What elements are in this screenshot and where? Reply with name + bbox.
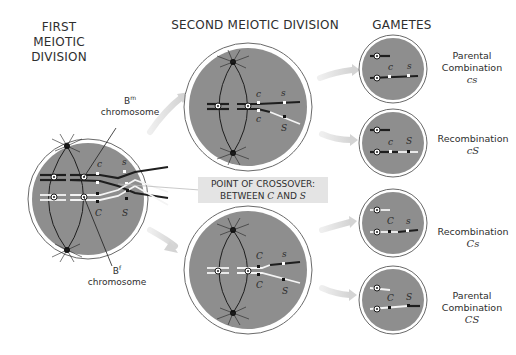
crossover-gene2: S <box>300 191 306 201</box>
gamete-type2: Combination <box>432 302 512 314</box>
svg-text:C: C <box>256 251 263 261</box>
label-word: chromosome <box>88 277 146 287</box>
svg-text:C: C <box>387 216 394 226</box>
gamete-genotype: cs <box>432 74 512 86</box>
svg-text:S: S <box>406 292 412 302</box>
svg-text:s: s <box>406 216 411 226</box>
svg-text:c: c <box>256 114 261 124</box>
gamete-type: Parental <box>432 290 512 302</box>
bm-chromosome-label: Bm chromosome <box>100 92 160 118</box>
second-division-lower-cell: C s C S <box>184 206 312 334</box>
gamete-label-cS: Recombination cS <box>430 133 516 157</box>
arrow-icon <box>320 70 352 78</box>
svg-text:c: c <box>388 62 393 72</box>
gamete-type: Recombination <box>430 226 516 238</box>
gamete-label-cs: Parental Combination cs <box>432 50 512 86</box>
crossover-prefix: BETWEEN <box>220 191 267 201</box>
svg-text:s: s <box>407 61 412 71</box>
gamete-genotype: CS <box>432 314 512 326</box>
gamete-type: Parental <box>432 50 512 62</box>
gamete-genotype: cS <box>430 145 516 157</box>
svg-text:S: S <box>122 208 128 218</box>
arrow-icon <box>322 288 350 295</box>
gamete-cell-CS: C S <box>359 266 427 334</box>
bf-chromosome-label: Bf chromosome <box>82 262 152 288</box>
label-word: chromosome <box>101 107 159 117</box>
label-sup: m <box>130 94 136 101</box>
svg-text:C: C <box>387 293 394 303</box>
svg-text:c: c <box>97 159 102 169</box>
gamete-label-CS: Parental Combination CS <box>432 290 512 326</box>
crossover-line2: BETWEEN C AND S <box>198 190 328 202</box>
gamete-label-Cs: Recombination Cs <box>430 226 516 250</box>
svg-text:s: s <box>282 249 287 259</box>
svg-text:s: s <box>281 88 286 98</box>
svg-text:C: C <box>256 280 263 290</box>
gamete-cell-cS: c S <box>359 109 427 177</box>
gamete-cell-Cs: C s <box>359 189 427 257</box>
svg-text:s: s <box>122 157 127 167</box>
arrow-icon <box>322 222 350 230</box>
crossover-point-label: POINT OF CROSSOVER: BETWEEN C AND S <box>198 177 328 203</box>
gamete-type: Recombination <box>430 133 516 145</box>
second-division-upper-cell: c s c S <box>184 43 312 171</box>
label-sup: f <box>119 264 121 271</box>
gamete-genotype: Cs <box>430 238 516 250</box>
gamete-type2: Combination <box>432 62 512 74</box>
svg-text:C: C <box>95 208 102 218</box>
svg-text:S: S <box>406 136 412 146</box>
svg-text:S: S <box>281 123 287 133</box>
svg-text:c: c <box>388 137 393 147</box>
crossover-mid: AND <box>274 191 300 201</box>
svg-text:S: S <box>282 286 288 296</box>
crossover-line1: POINT OF CROSSOVER: <box>198 178 328 190</box>
svg-text:c: c <box>256 89 261 99</box>
gamete-cell-cs: c s <box>359 35 427 103</box>
arrow-icon <box>322 134 352 140</box>
